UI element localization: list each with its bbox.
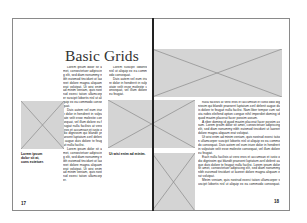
paragraph: Lorem suscipit lobortis nisl ut aliquip … — [109, 66, 147, 78]
image-caption: Lorem ipsum dolor sit at, cons ectetuer. — [21, 152, 47, 164]
paragraph: Lorem ipsum dolor sit amet, consectetuer… — [63, 148, 102, 183]
paragraph: Duis autem vel eum iriure dolor in hendr… — [63, 109, 102, 148]
body-column-1: Lorem ipsum dolor sit amet, consectetuer… — [63, 66, 102, 211]
book-spread: Basic Grids Lorem ipsum dolor sit amet, … — [0, 0, 307, 223]
paragraph: Lorem ipsum dolor sit amet, consectetuer… — [63, 66, 102, 109]
body-text: nulla facilisis at vero eros et accumsan… — [198, 101, 280, 186]
paragraph: Ut wisi enim ad minim veniam, quis nostr… — [198, 136, 280, 156]
image-placeholder — [21, 101, 64, 149]
image-placeholder — [152, 153, 195, 211]
paragraph: A riber doming id quod mazim placerat fa… — [198, 121, 280, 137]
paragraph: Duis autem vel eum iriure dolor in hendr… — [109, 78, 147, 98]
placeholder-cross-icon — [152, 49, 282, 97]
placeholder-cross-icon — [21, 101, 64, 149]
body-column-2: Lorem suscipit lobortis nisl ut aliquip … — [109, 66, 147, 99]
page-title: Basic Grids — [65, 47, 139, 65]
image-placeholder-wide — [152, 49, 282, 97]
paragraph: nulla facilisis at vero eros et accumsan… — [198, 101, 280, 121]
page-number: 17 — [21, 201, 26, 206]
book-spine — [152, 18, 154, 211]
paragraph: Each nulla facilisis at vero eros et acc… — [198, 156, 280, 179]
page-number: 18 — [274, 199, 279, 204]
placeholder-cross-icon — [152, 153, 195, 211]
paragraph: Minim veniam, quis nostrud exerci tation… — [198, 179, 280, 186]
image-caption: Ut wisi enim ad minim. — [109, 152, 149, 156]
